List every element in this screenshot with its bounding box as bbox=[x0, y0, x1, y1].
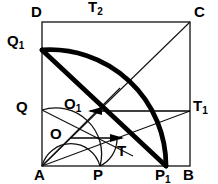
vertex-label-D: D bbox=[31, 4, 42, 22]
vertex-label-t1: T1 bbox=[193, 98, 208, 116]
geometry-figure: D T2 C Q1 Q O1 T1 O T A P P1 B bbox=[0, 0, 218, 184]
vertex-label-T: T bbox=[117, 143, 126, 161]
vertex-label-C: C bbox=[194, 4, 205, 22]
geometry-canvas bbox=[0, 0, 218, 184]
vertex-label-p1: P1 bbox=[155, 167, 171, 184]
vertex-label-A: A bbox=[34, 167, 45, 184]
vertex-label-t2: T2 bbox=[88, 0, 103, 17]
vertex-label-q1: Q1 bbox=[7, 33, 24, 51]
vertex-label-Q: Q bbox=[16, 99, 28, 117]
vertex-label-O: O bbox=[50, 126, 62, 144]
vertex-label-o1: O1 bbox=[64, 96, 81, 114]
vertex-label-B: B bbox=[183, 167, 194, 184]
vertex-label-P: P bbox=[93, 167, 103, 184]
